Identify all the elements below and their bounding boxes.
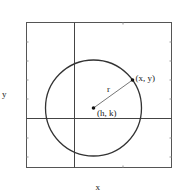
radius-label: r: [107, 84, 110, 94]
point-label: (x, y): [136, 73, 156, 83]
plot-frame: [27, 23, 172, 168]
circle-point: [131, 78, 135, 82]
center-point: [92, 106, 96, 110]
circle-diagram: (h, k) (x, y) r y x: [0, 0, 185, 194]
diagram-canvas: (h, k) (x, y) r y x: [0, 0, 185, 194]
y-axis-label: y: [2, 89, 7, 99]
x-axis-label: x: [96, 182, 101, 192]
center-label: (h, k): [97, 108, 117, 118]
radius-line: [94, 80, 133, 108]
